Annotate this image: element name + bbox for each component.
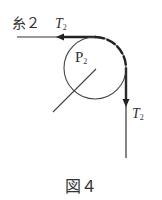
arrow-down-icon xyxy=(123,99,130,107)
figure-caption: 図４ xyxy=(65,177,97,196)
string-label: 糸２ xyxy=(12,15,40,31)
arrow-left-icon xyxy=(56,34,64,41)
string-arc xyxy=(95,37,126,68)
tension-top-label: T2 xyxy=(55,16,67,32)
pulley-diagram: 糸２ T2 T2 P2 図４ xyxy=(0,0,162,200)
pulley-support-rod xyxy=(53,69,96,112)
pulley-label: P2 xyxy=(75,49,87,66)
tension-right-label: T2 xyxy=(132,106,144,122)
